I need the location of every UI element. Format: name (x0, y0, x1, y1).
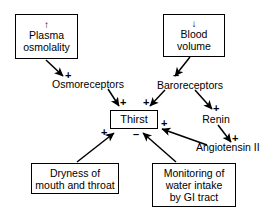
node-thirst: Thirst (110, 110, 158, 129)
node-label-line2: water intake (166, 179, 223, 191)
node-dryness-of-mouth-and-throat: Dryness of mouth and throat (31, 163, 119, 194)
node-baroreceptors: Baroreceptors (152, 80, 228, 92)
node-label-line2: mouth and throat (35, 179, 114, 191)
up-arrow-icon: ↑ (44, 20, 49, 29)
node-label-line1: Blood (181, 28, 208, 40)
node-label-line3: by GI tract (170, 191, 218, 203)
node-label-line2: volume (177, 40, 211, 52)
node-plasma-osmolality: ↑ Plasma osmolality (15, 14, 78, 59)
sign-baroreceptors-to-thirst: + (143, 97, 149, 108)
down-arrow-icon: ↓ (192, 19, 197, 28)
node-label-line2: osmolality (23, 41, 70, 53)
node-gi-tract-monitoring: Monitoring of water intake by GI tract (152, 163, 236, 207)
node-label-line1: Dryness of (50, 167, 100, 179)
edge-baroreceptors-to-thirst (150, 90, 165, 106)
sign-baroreceptors-to-renin: + (213, 103, 219, 114)
edge-baroreceptors-to-renin (195, 90, 212, 109)
node-label-line1: Monitoring of (164, 167, 225, 179)
edge-gi-to-thirst (143, 133, 176, 162)
sign-angiotensin-to-thirst: + (161, 118, 167, 129)
node-label-line1: Plasma (29, 29, 64, 41)
sign-blood-to-baroreceptors: – (173, 70, 179, 81)
sign-plasma-to-osmoreceptors: + (65, 70, 71, 81)
sign-dryness-to-thirst: + (101, 127, 107, 138)
node-blood-volume: ↓ Blood volume (163, 14, 225, 57)
sign-gi-to-thirst: – (133, 129, 139, 140)
node-osmoreceptors: Osmoreceptors (50, 79, 126, 91)
node-renin: Renin (196, 114, 236, 126)
sign-renin-to-angiotensin: + (232, 133, 238, 144)
edge-osmoreceptors-to-thirst (108, 89, 119, 106)
node-label: Thirst (120, 113, 148, 125)
sign-osmoreceptors-to-thirst: + (120, 97, 126, 108)
edge-renin-to-angiotensin (218, 125, 231, 142)
thirst-regulation-diagram: ↑ Plasma osmolality ↓ Blood volume Osmor… (0, 0, 278, 220)
edge-plasma-to-osmoreceptors (46, 60, 63, 76)
edge-dryness-to-thirst (77, 133, 114, 162)
